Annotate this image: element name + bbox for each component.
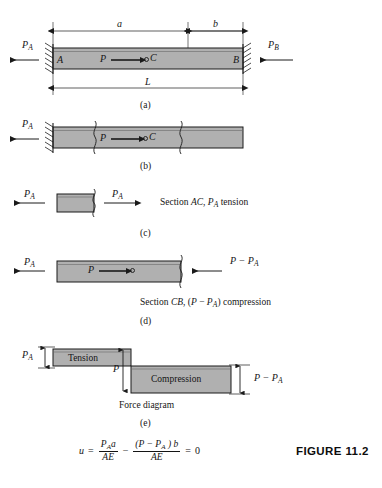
force-diagram-title: Force diagram [119,400,174,410]
label-node-b: B [233,55,239,65]
equation-term-1: PAa AE [98,440,119,462]
label-load-p-part-a: P [100,54,106,64]
part-label-e: (e) [140,418,151,428]
label-force-pa-left-part-c: PA [24,189,35,200]
label-node-a: A [57,55,63,65]
label-reaction-pb-part-a: PB [268,40,279,51]
label-force-pa-part-e: PA [22,350,33,361]
figure-11-2: PA PB A B P C a b L (a) PA P C (b) PA PA… [0,0,382,488]
label-force-p-minus-pa-part-d: P − PA [230,256,259,267]
label-node-c-part-b: C [149,132,156,142]
label-node-c-part-a: C [150,53,157,63]
label-force-pa-part-d: PA [24,257,35,268]
figure-caption: FIGURE 11.2 [296,445,369,457]
label-reaction-pa-part-b: PA [22,119,33,130]
part-label-c: (c) [140,228,151,238]
part-label-b: (b) [140,161,151,171]
compression-block-label: Compression [151,374,201,384]
figure-vector-graphics [0,0,382,488]
part-label-d: (d) [140,316,151,326]
part-d-diagram [14,255,222,288]
tension-block-label: Tension [68,353,98,363]
label-force-p-minus-pa-part-e: P − PA [254,373,283,384]
section-caption-part-c: Section AC, PA tension [160,197,248,209]
section-caption-part-d: Section CB, (P − PA) compression [140,297,271,309]
dimension-label-b: b [213,19,218,29]
dimension-label-a: a [117,19,122,29]
label-load-p-part-b: P [100,133,106,143]
part-label-a: (a) [140,100,151,110]
label-load-p-part-d: P [88,265,94,275]
equation-term-2: (P − PA ) b AE [132,440,181,462]
label-reaction-pa-part-a: PA [22,40,33,51]
label-force-p-part-e: P [113,364,119,374]
label-force-pa-right-part-c: PA [112,189,123,200]
part-b-diagram [10,121,243,154]
dimension-label-l: L [145,77,151,87]
equilibrium-equation: u = PAa AE − (P − PA ) b AE = 0 [79,440,200,462]
